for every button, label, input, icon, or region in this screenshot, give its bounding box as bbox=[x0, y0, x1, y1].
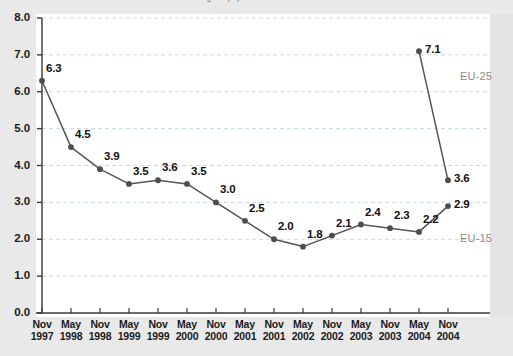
y-axis-tick-label: 1.0 bbox=[0, 269, 30, 281]
data-point bbox=[358, 222, 364, 228]
data-point bbox=[271, 236, 277, 242]
data-point-label: 2.5 bbox=[249, 202, 264, 214]
series-line-eu25 bbox=[419, 51, 448, 180]
data-point-label: 3.5 bbox=[191, 165, 206, 177]
data-point-label: 4.5 bbox=[75, 128, 90, 140]
gridlines bbox=[42, 18, 490, 276]
data-point bbox=[97, 166, 103, 172]
data-point-label: 3.9 bbox=[104, 150, 119, 162]
data-point bbox=[445, 177, 451, 183]
y-axis-tick-label: 5.0 bbox=[0, 122, 30, 134]
x-axis-ticks bbox=[42, 308, 448, 313]
polyline-eu25 bbox=[419, 51, 448, 180]
y-axis-tick-label: 8.0 bbox=[0, 11, 30, 23]
series-markers-eu15 bbox=[39, 78, 451, 250]
data-point-label: 3.6 bbox=[454, 172, 469, 184]
y-axis-tick-label: 0.0 bbox=[0, 306, 30, 318]
data-point bbox=[126, 181, 132, 187]
data-point bbox=[416, 229, 422, 235]
data-point bbox=[445, 203, 451, 209]
data-point-label: 6.3 bbox=[46, 62, 61, 74]
data-point bbox=[39, 78, 45, 84]
series-label-eu25: EU-25 bbox=[460, 70, 492, 82]
data-point-label: 3.6 bbox=[162, 161, 177, 173]
data-point-label: 2.4 bbox=[365, 206, 380, 218]
data-point bbox=[213, 199, 219, 205]
data-point bbox=[416, 48, 422, 54]
data-point-label: 3.5 bbox=[133, 165, 148, 177]
data-point-label: 3.0 bbox=[220, 183, 235, 195]
x-tick-year: 2004 bbox=[428, 330, 468, 342]
y-axis-tick-label: 3.0 bbox=[0, 195, 30, 207]
y-axis-tick-label: 6.0 bbox=[0, 85, 30, 97]
data-point-label: 1.8 bbox=[307, 228, 322, 240]
y-axis-ticks bbox=[37, 18, 42, 313]
data-point bbox=[155, 177, 161, 183]
data-point-label: 2.3 bbox=[394, 209, 409, 221]
data-point bbox=[184, 181, 190, 187]
data-point-label: 2.1 bbox=[336, 217, 351, 229]
line-chart: ...ge of population 65 and over 8.07.06.… bbox=[0, 0, 513, 356]
y-axis-tick-label: 2.0 bbox=[0, 232, 30, 244]
data-point bbox=[387, 225, 393, 231]
data-point-label: 2.0 bbox=[278, 220, 293, 232]
y-axis-tick-label: 7.0 bbox=[0, 48, 30, 60]
data-point bbox=[329, 233, 335, 239]
x-tick-month: Nov bbox=[428, 318, 468, 330]
data-point-label: 2.2 bbox=[423, 213, 438, 225]
x-axis-tick-label: Nov2004 bbox=[428, 318, 468, 342]
series-label-eu15: EU-15 bbox=[460, 232, 492, 244]
data-point bbox=[300, 244, 306, 250]
data-point bbox=[242, 218, 248, 224]
data-point bbox=[68, 144, 74, 150]
data-point-label: 7.1 bbox=[425, 43, 440, 55]
y-axis-tick-label: 4.0 bbox=[0, 159, 30, 171]
data-point-label: 2.9 bbox=[454, 198, 469, 210]
